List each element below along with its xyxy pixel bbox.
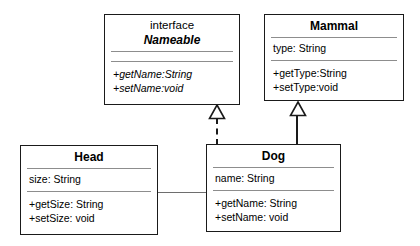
- association-head-dog: [158, 192, 207, 193]
- attribute-item: type: String: [273, 42, 395, 56]
- class-header-nameable: interface Nameable: [105, 15, 239, 51]
- realization-hollow-triangle-icon: [208, 104, 226, 120]
- operation-item: +setName:void: [113, 82, 231, 96]
- operation-item: +getSize: String: [29, 198, 149, 212]
- uml-class-diagram-canvas: interface Nameable +getName:String +setN…: [0, 0, 420, 246]
- class-name-head: Head: [27, 150, 151, 164]
- class-header-head: Head: [21, 146, 157, 168]
- operations-compartment-dog: +getName: String +setName: void: [207, 191, 340, 229]
- generalization-line-dog-mammal: [296, 115, 298, 145]
- class-name-dog: Dog: [213, 149, 334, 163]
- class-name-nameable: Nameable: [111, 33, 233, 47]
- attributes-compartment-dog: name: String: [207, 168, 340, 190]
- stereotype-label-nameable: interface: [111, 19, 233, 33]
- operation-item: +getName: String: [215, 197, 332, 211]
- class-box-nameable[interactable]: interface Nameable +getName:String +setN…: [104, 14, 240, 105]
- attribute-item: size: String: [29, 173, 149, 187]
- attribute-item: name: String: [215, 172, 332, 186]
- realization-line-dog-nameable: [216, 118, 218, 145]
- generalization-hollow-triangle-icon: [289, 101, 307, 117]
- operation-item: +setName: void: [215, 211, 332, 225]
- operation-item: +getType:String: [273, 67, 395, 81]
- class-header-mammal: Mammal: [265, 15, 403, 37]
- class-box-head[interactable]: Head size: String +getSize: String +setS…: [20, 145, 158, 235]
- operations-compartment-head: +getSize: String +setSize: void: [21, 192, 157, 230]
- class-header-dog: Dog: [207, 145, 340, 167]
- operation-item: +getName:String: [113, 68, 231, 82]
- attributes-compartment-head: size: String: [21, 169, 157, 191]
- class-box-dog[interactable]: Dog name: String +getName: String +setNa…: [206, 144, 341, 232]
- class-box-mammal[interactable]: Mammal type: String +getType:String +set…: [264, 14, 404, 101]
- operation-item: +setSize: void: [29, 212, 149, 226]
- attributes-compartment-mammal: type: String: [265, 38, 403, 60]
- operations-compartment-mammal: +getType:String +setType:void: [265, 61, 403, 99]
- class-name-mammal: Mammal: [271, 19, 397, 33]
- operation-item: +setType:void: [273, 81, 395, 95]
- attributes-compartment-nameable: [105, 52, 239, 61]
- operations-compartment-nameable: +getName:String +setName:void: [105, 62, 239, 100]
